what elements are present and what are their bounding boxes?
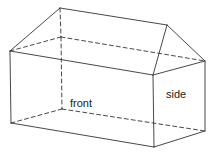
- edge-AC: [10, 8, 60, 51]
- edge-CG: [10, 51, 11, 123]
- edge-FJ: [61, 37, 62, 109]
- front-label: front: [70, 97, 92, 109]
- house-prism-diagram: front side: [0, 0, 215, 154]
- edge-DH: [153, 75, 154, 147]
- edge-JI: [62, 109, 205, 131]
- edge-HI: [154, 131, 205, 147]
- edge-DE: [153, 61, 205, 75]
- side-label: side: [166, 88, 186, 100]
- hidden-edges: [10, 8, 205, 131]
- edge-AB: [60, 8, 167, 25]
- edge-GH: [11, 123, 154, 147]
- edge-CD: [10, 51, 153, 75]
- edge-GJ: [11, 109, 62, 123]
- edge-AF: [60, 8, 61, 37]
- edge-BD: [153, 25, 167, 75]
